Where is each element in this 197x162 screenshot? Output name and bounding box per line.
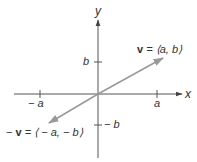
x-axis-label: x <box>185 88 191 100</box>
vector-neg-v-label: − v = ⟨ − a, − b⟩ <box>6 127 83 138</box>
vector-v-components: = ⟨a, b⟩ <box>143 43 182 55</box>
tick-label-b: b <box>83 56 89 67</box>
vector-v-label: v = ⟨a, b⟩ <box>137 44 182 55</box>
vector-neg-v <box>49 94 98 123</box>
tick-label-neg-b: − b <box>104 119 120 130</box>
y-axis-label: y <box>95 5 101 17</box>
tick-label-neg-a: − a <box>28 98 44 109</box>
vector-neg-v-components: = ⟨ − a, − b⟩ <box>22 126 83 138</box>
vector-v <box>98 58 163 94</box>
tick-label-a: a <box>154 98 160 109</box>
